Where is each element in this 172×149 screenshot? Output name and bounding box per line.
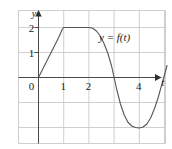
x-tick-label: 2 (86, 80, 92, 92)
x-tick-label: 4 (136, 80, 142, 92)
figure-container: 0124 12 y t y = f(t) (0, 0, 172, 149)
y-axis-label: y (31, 8, 37, 19)
y-tick-label: 1 (29, 47, 35, 59)
y-tick-label: 2 (29, 22, 35, 34)
plot-background (0, 0, 172, 149)
x-tick-label: 1 (60, 80, 66, 92)
x-tick-label: 0 (29, 80, 35, 92)
function-graph: 0124 12 y t y = f(t) (0, 0, 172, 149)
curve-equation-label: y = f(t) (98, 31, 131, 44)
x-axis-label: t (162, 77, 165, 88)
